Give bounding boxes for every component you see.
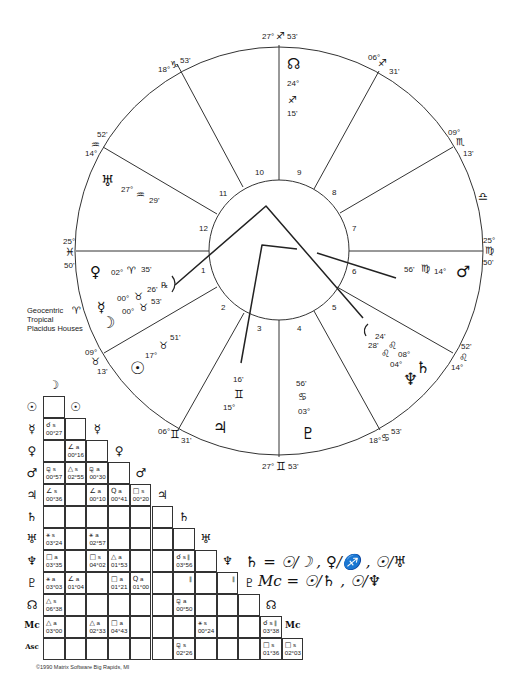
aspect-cell: Q a01°00 — [130, 572, 152, 594]
cusp-dsc-deg: 25° — [483, 237, 495, 245]
aspect-type: a — [53, 619, 56, 626]
aspect-cell — [238, 594, 260, 616]
cusp-mc-min: 53' — [287, 33, 297, 41]
aspect-orb: 06°38 — [46, 605, 64, 612]
north-node-icon: ☊ — [287, 57, 300, 72]
moon-min: 53' — [151, 298, 161, 306]
grid-row-header: ☉ — [23, 401, 41, 413]
cusp-ic-min: 53' — [288, 463, 298, 471]
neptune-deg: 04° — [390, 361, 402, 369]
aspect-orb: 02°03 — [285, 649, 303, 656]
aspect-orb: 02°55 — [68, 473, 86, 480]
pluto-min: 56' — [296, 380, 306, 388]
cusp-6-min: 52' — [461, 343, 471, 351]
aspect-type: s — [183, 641, 186, 648]
retrograde-arc-mercury — [172, 276, 175, 292]
taurus-icon: ♉ — [159, 341, 168, 351]
aspect-type: s ∥ — [269, 619, 277, 626]
chart-info-line: Tropical — [27, 315, 83, 324]
grid-row-header: ♄ — [23, 511, 41, 523]
aspect-cell — [86, 638, 108, 660]
aspect-cell — [65, 528, 87, 550]
aspect-cell — [238, 638, 260, 660]
grid-row-header: Mc — [23, 621, 41, 630]
aspect-cell: ∠ a01°04 — [65, 572, 87, 594]
uranus-icon: ♅ — [101, 174, 114, 189]
aspect-cell: △ s06°38 — [43, 594, 65, 616]
aspect-type: a — [95, 531, 98, 538]
cusp-dsc-min: 50' — [483, 259, 493, 267]
aspect-type: a — [119, 619, 122, 626]
aspect-cell — [130, 616, 152, 638]
aspect-glyph-icon: ⚹ — [46, 531, 50, 539]
aspect-cell — [130, 550, 152, 572]
aspect-orb: 00°24 — [198, 627, 216, 634]
sun-min: 51' — [170, 334, 180, 342]
aspect-orb: 01°04 — [68, 583, 86, 590]
aspect-glyph-icon: △ — [46, 619, 51, 627]
grid-column-header: Mc — [284, 621, 302, 630]
mercury-deg: 00° — [117, 295, 129, 303]
house-number-5: 5 — [332, 304, 336, 312]
cusp-12-min: 52' — [97, 131, 107, 139]
aspect-cell — [173, 616, 195, 638]
aspect-cell — [108, 594, 130, 616]
aries-icon: ♈ — [127, 266, 136, 276]
aspect-orb: 00°16 — [68, 451, 86, 458]
libra-icon: ♎ — [478, 191, 488, 202]
aspect-cell — [173, 528, 195, 550]
venus-deg: 02° — [111, 269, 123, 277]
aspect-glyph-icon: Q — [111, 487, 117, 495]
aspect-orb: 04°02 — [89, 561, 107, 568]
mars-min: 56' — [404, 266, 414, 274]
aspect-glyph-icon: □ — [46, 553, 53, 561]
leo-icon: ♌ — [381, 349, 390, 359]
venus-min: 35' — [141, 266, 151, 274]
aspect-orb: 01°53 — [111, 561, 129, 568]
grid-column-header: ☉ — [67, 401, 85, 413]
aspect-cell: ⚼ a00°50 — [173, 594, 195, 616]
grid-column-header: ♆ — [219, 555, 237, 567]
chart-info: Geocentric Tropical Placidus Houses — [27, 306, 83, 333]
aspect-cell: □ s00°20 — [130, 484, 152, 506]
aspect-glyph-icon: ⚼ — [176, 597, 181, 605]
aspect-glyph-icon: □ — [111, 575, 118, 583]
aspect-glyph-icon: □ — [89, 553, 96, 561]
aspect-cell — [152, 528, 174, 550]
aspect-cell: □ a03°35 — [43, 550, 65, 572]
aspect-cell — [217, 616, 239, 638]
grid-row-header: ♇ — [23, 577, 41, 589]
aspect-glyph-icon: ∠ — [68, 443, 74, 451]
aspect-cell: ☌ s00°27 — [43, 418, 65, 440]
cusp-ic-deg: 27° — [262, 463, 274, 471]
aspect-orb: 01°00 — [133, 583, 151, 590]
mars-icon: ♂ — [456, 264, 470, 280]
aspect-orb: 00°27 — [46, 429, 64, 436]
cusp-3-min: 31' — [181, 437, 191, 445]
grid-row-header: ♆ — [23, 555, 41, 567]
aspect-type: a — [76, 575, 79, 582]
aspect-type: a — [97, 619, 100, 626]
north-node-min: 15' — [287, 110, 297, 118]
aspect-cell — [65, 616, 87, 638]
grid-row-header: ♅ — [23, 533, 41, 545]
aspect-type: ∥ — [232, 575, 235, 582]
gemini-icon: ♊ — [170, 429, 180, 440]
cusp-line-12 — [103, 147, 217, 214]
aspect-cell — [108, 462, 130, 484]
aspect-cell: ⚼ s02°26 — [173, 638, 195, 660]
cusp-3-deg: 06° — [158, 428, 170, 436]
venus-icon: ♀ — [90, 265, 101, 280]
cusp-line-9 — [314, 71, 379, 189]
cusp-5-min: 53' — [391, 428, 401, 436]
virgo-icon: ♍ — [485, 246, 494, 256]
aspect-orb: 00°20 — [133, 495, 151, 502]
uranus-deg: 27° — [121, 186, 133, 194]
aspect-glyph-icon: ⚼ — [46, 465, 51, 473]
taurus-icon: ♉ — [134, 292, 143, 302]
uranus-min: 29' — [149, 197, 159, 205]
aspect-cell: □ a01°21 — [108, 572, 130, 594]
gemini-icon: ♊ — [276, 461, 286, 472]
aspect-cell — [152, 594, 174, 616]
mars-deg: 14° — [434, 268, 446, 276]
